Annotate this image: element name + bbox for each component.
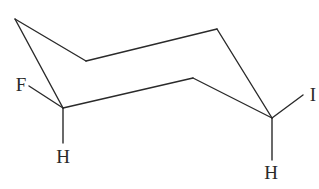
ring-bond-lower-right-to-left-carbon bbox=[63, 78, 193, 108]
iodine-label: I bbox=[310, 84, 316, 105]
ring-bond-upper-left-to-top-right bbox=[86, 29, 217, 61]
hydrogen-left-label: H bbox=[56, 146, 70, 167]
atom-labels: F H I H bbox=[16, 74, 316, 183]
molecule-drawing: F H I H bbox=[0, 0, 319, 189]
substituent-bonds bbox=[29, 86, 303, 160]
hydrogen-right-label: H bbox=[264, 162, 278, 183]
chair-conformation-diagram: F H I H bbox=[0, 0, 319, 189]
cyclohexane-ring bbox=[15, 19, 272, 118]
fluorine-label: F bbox=[16, 74, 27, 95]
bond-c-i bbox=[272, 95, 303, 118]
bond-c-f bbox=[29, 86, 63, 108]
